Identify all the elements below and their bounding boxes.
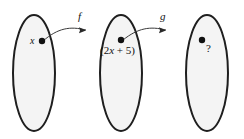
label-intermediate-expression: (2x + 5) bbox=[100, 45, 135, 56]
mapping-diagram bbox=[0, 0, 244, 139]
dot-codomain-element bbox=[199, 37, 205, 43]
oval-codomain-set bbox=[186, 15, 228, 131]
expr-suffix: + 5) bbox=[114, 44, 135, 56]
label-function-f: f bbox=[78, 11, 81, 22]
oval-domain-set bbox=[13, 15, 55, 131]
diagram-canvas: x f g (2x + 5) ? bbox=[0, 0, 244, 139]
arrow-f-head bbox=[79, 27, 86, 33]
expr-prefix: (2 bbox=[100, 44, 109, 56]
arrow-g-head bbox=[159, 27, 166, 33]
dot-domain-element bbox=[39, 38, 45, 44]
label-function-g: g bbox=[160, 11, 166, 22]
dot-intermediate-element bbox=[118, 37, 124, 43]
label-domain-element: x bbox=[30, 36, 34, 46]
label-codomain-unknown: ? bbox=[206, 43, 211, 54]
